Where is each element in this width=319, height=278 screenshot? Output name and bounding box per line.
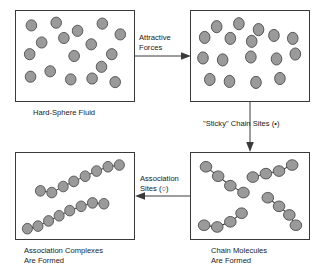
sphere [45,66,56,77]
sphere [44,216,54,227]
sphere [262,192,274,203]
chain-molecule-chains [191,153,309,239]
sphere-chain [262,192,302,230]
sphere [47,187,57,198]
caption-chain-molecules: Chain Molecules Are Formed [211,246,319,265]
sphere [103,161,113,172]
sphere [246,51,257,63]
sphere [87,198,97,209]
sphere [69,50,80,61]
sphere [115,29,126,40]
sphere [238,187,250,198]
sphere [225,216,237,227]
hard-sphere-scatter [16,11,134,101]
sphere [247,172,259,183]
panel-hard-sphere-fluid [15,10,135,102]
sphere [287,32,298,44]
association-complex-chains [16,153,134,239]
sphere [97,18,108,29]
sphere-chain [198,208,247,232]
sphere [217,54,228,66]
sphere [25,71,36,82]
sphere [200,161,212,172]
arrow-label-association-sites: Association Sites (○) [140,174,196,195]
arrow-label-attractive-forces: Attractive Forces [139,33,193,54]
sphere [253,24,264,36]
diagram-canvas: Hard-Sphere Fluid Association Complexes … [0,0,319,278]
sphere [225,180,237,191]
sphere [284,210,296,221]
sphere [58,181,68,192]
sphere [92,166,102,177]
panel-association-complexes [15,152,135,240]
sphere-chain [200,161,249,197]
sphere [205,73,216,85]
sphere [198,52,209,64]
sphere [72,25,83,36]
sphere [114,160,124,171]
sphere [99,198,109,209]
sphere [80,171,90,182]
sphere [273,166,285,177]
panel-chain-molecules [190,152,310,240]
arrow-label-sticky-chain-sites: "Sticky" Chain Sites (•) [203,119,319,129]
sphere [22,223,32,234]
sphere-chain [22,198,109,234]
caption-association-complexes: Association Complexes Are Formed [24,246,154,265]
sphere [290,220,302,231]
sphere [211,21,222,33]
sphere [24,49,35,60]
sphere [199,31,210,43]
sphere [212,171,224,182]
sphere [54,210,64,221]
sphere [286,160,298,171]
sphere [36,37,47,48]
sphere [110,77,121,88]
sphere [234,18,245,30]
sticky-sphere-scatter [191,11,309,101]
sphere [269,29,280,41]
sphere [76,201,86,212]
sphere [106,49,117,60]
sphere [86,39,97,50]
sphere [224,75,235,87]
caption-hard-sphere-fluid: Hard-Sphere Fluid [33,108,143,118]
sphere [198,220,210,231]
sphere [59,32,70,43]
sphere [69,176,79,187]
sphere [65,74,76,85]
sphere [260,168,272,179]
sphere [251,76,262,88]
sphere-chain [35,160,124,198]
sphere [271,53,282,65]
sphere [275,72,286,84]
sphere [87,73,98,84]
sphere [26,20,37,31]
sphere [273,201,285,212]
sphere [35,186,45,197]
sphere [51,17,62,28]
sphere [290,48,301,60]
sphere [65,205,75,216]
panel-sticky-spheres [190,10,310,102]
sphere [211,222,223,233]
sphere [33,221,43,232]
sphere [236,208,248,219]
sphere [225,32,236,44]
sphere-chain [247,160,298,183]
sphere [96,61,107,72]
sphere [246,35,257,47]
